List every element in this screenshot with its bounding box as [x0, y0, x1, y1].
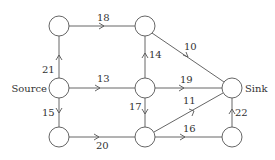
capacity-source-d: 15	[42, 107, 55, 118]
capacity-c-sink: 19	[180, 74, 193, 85]
capacity-b-sink: 10	[184, 41, 197, 52]
capacity-source-a: 21	[42, 64, 55, 75]
capacity-f-sink: 22	[235, 107, 248, 118]
capacity-e-sink: 11	[183, 95, 196, 106]
capacity-e-f: 16	[183, 123, 196, 134]
source-label: Source	[11, 83, 47, 94]
node-c	[135, 78, 155, 98]
capacity-d-e: 20	[96, 140, 109, 151]
node-d	[49, 127, 69, 147]
capacity-source-c: 13	[97, 73, 110, 84]
node-b	[135, 16, 155, 36]
node-sink	[222, 78, 242, 98]
capacity-c-e: 17	[129, 101, 142, 112]
node-a	[49, 16, 69, 36]
node-source	[49, 78, 69, 98]
flow-network-diagram: Source Sink 21 18 10 13 14 19 15 17 20 1…	[0, 0, 275, 160]
capacity-c-b: 14	[149, 49, 162, 60]
node-f	[222, 127, 242, 147]
capacity-a-b: 18	[97, 12, 110, 23]
node-e	[135, 127, 155, 147]
sink-label: Sink	[245, 83, 268, 94]
